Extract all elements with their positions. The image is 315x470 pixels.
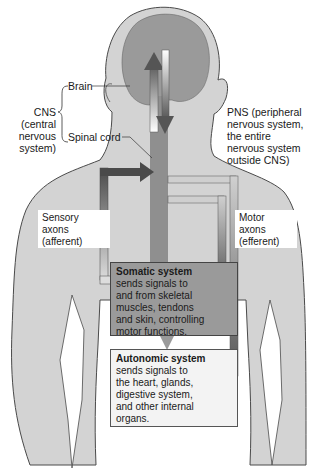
cns-label: CNS (central nervous system) [2,106,56,154]
autonomic-title: Autonomic system [116,353,205,364]
autonomic-system-box: Autonomic system sends signals to the he… [110,349,238,427]
pns-label: PNS (peripheral nervous system, the enti… [227,106,303,166]
somatic-system-box: Somatic system sends signals to and from… [110,262,238,336]
cns-brace [58,86,68,142]
sensory-axons-box: Sensory axons (afferent) [38,210,110,248]
brain-label: Brain [68,80,93,92]
motor-axons-box: Motor axons (efferent) [235,210,297,248]
spinal-cord-label: Spinal cord [68,131,121,143]
somatic-title: Somatic system [116,266,192,277]
